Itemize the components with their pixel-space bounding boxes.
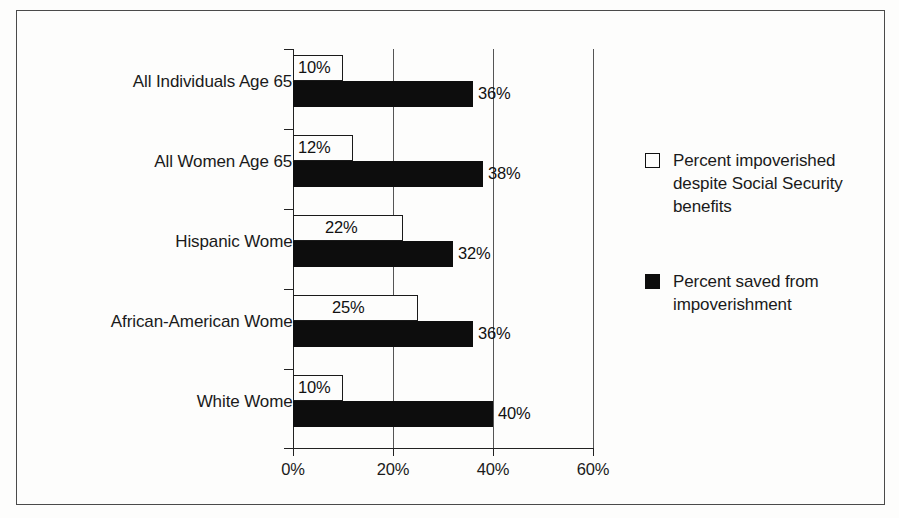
bar-filled-value-1: 38% [488,164,520,183]
category-label-0: All Individuals Age 65+ [17,72,302,92]
x-axis-tick-20 [393,448,394,456]
chart-screenshot: 0% 20% 40% 60% All Individuals Age 65+ 1… [0,0,899,518]
bar-filled-4 [293,401,493,427]
bar-filled-value-3: 36% [478,324,510,343]
filled-square-icon [645,274,660,289]
bar-open-value-4: 10% [298,378,330,397]
x-axis-tick-60 [593,448,594,456]
bar-filled-3 [293,321,473,347]
bar-open-value-3: 25% [332,298,364,317]
y-axis-tick [284,369,293,370]
bar-open-value-0: 10% [298,58,330,77]
category-label-4: White Women [17,392,302,412]
bar-filled-value-4: 40% [498,404,530,423]
bar-open-value-2: 22% [325,218,357,237]
legend-label-saved: Percent saved from impoverishment [673,272,819,314]
gridline-60 [593,49,594,449]
x-axis-line [293,448,594,449]
x-axis-tick-40 [493,448,494,456]
category-label-3: African-American Women [17,312,302,332]
open-square-icon [645,153,660,168]
bar-open-value-1: 12% [298,138,330,157]
y-axis-tick [284,448,293,449]
bar-filled-value-2: 32% [458,244,490,263]
x-axis-label-60: 60% [577,460,609,479]
chart-frame: 0% 20% 40% 60% All Individuals Age 65+ 1… [16,10,885,505]
category-label-1: All Women Age 65+ [17,152,302,172]
bar-filled-0 [293,81,473,107]
y-axis-tick [284,49,293,50]
x-axis-label-0: 0% [281,460,304,479]
bar-filled-1 [293,161,483,187]
category-label-2: Hispanic Women [17,232,302,252]
x-axis-tick-0 [293,448,294,456]
bar-filled-value-0: 36% [478,84,510,103]
legend-item-impoverished: Percent impoverished despite Social Secu… [645,149,885,218]
legend-label-impoverished: Percent impoverished despite Social Secu… [673,151,843,216]
y-axis-tick [284,209,293,210]
legend-item-saved: Percent saved from impoverishment [645,270,885,316]
y-axis-tick [284,129,293,130]
gridline-40 [493,49,494,449]
x-axis-label-20: 20% [377,460,409,479]
y-axis-tick [284,289,293,290]
chart-legend: Percent impoverished despite Social Secu… [645,149,885,368]
x-axis-label-40: 40% [477,460,509,479]
bar-filled-2 [293,241,453,267]
